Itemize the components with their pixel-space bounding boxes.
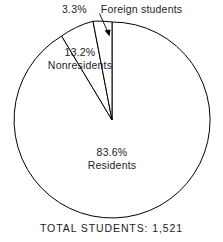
pie-chart-svg bbox=[0, 0, 223, 242]
label-residents-percent: 83.6% bbox=[74, 146, 150, 159]
label-residents: 83.6% Residents bbox=[74, 146, 150, 171]
label-residents-name: Residents bbox=[74, 159, 150, 172]
pie-chart-figure: 3.3% Foreign students 13.2% Nonresidents… bbox=[0, 0, 223, 242]
total-students-caption: TOTAL STUDENTS: 1,521 bbox=[0, 222, 223, 234]
label-foreign-students-percent: 3.3% bbox=[62, 3, 87, 16]
label-nonresidents-percent: 13.2% bbox=[38, 46, 122, 59]
label-nonresidents-name: Nonresidents bbox=[38, 59, 122, 72]
label-nonresidents: 13.2% Nonresidents bbox=[38, 46, 122, 71]
label-foreign-students: 3.3% Foreign students bbox=[62, 3, 182, 16]
label-foreign-students-name: Foreign students bbox=[101, 3, 182, 16]
